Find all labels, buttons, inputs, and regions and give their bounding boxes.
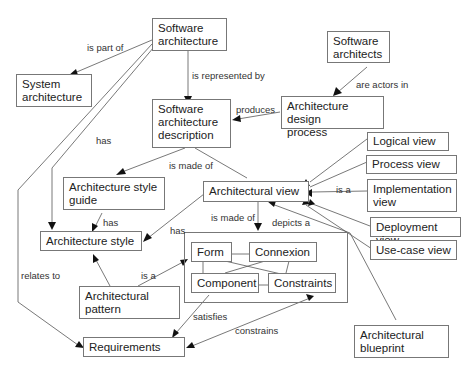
edge-label-depicts-a: depicts a (272, 217, 310, 228)
edge-is-a-pattern-style (96, 260, 110, 286)
edge-deployment-view (310, 203, 370, 226)
arrowhead (48, 222, 56, 230)
arrowhead (116, 168, 126, 175)
node-software-architects[interactable]: Software architects (327, 31, 390, 63)
node-system-architecture[interactable]: System architecture (16, 74, 92, 107)
node-software-architecture[interactable]: Software architecture (152, 18, 227, 51)
edge-label-constrains: constrains (235, 325, 278, 336)
arrowhead (333, 87, 342, 96)
node-style-guide[interactable]: Architecture style guide (63, 177, 165, 210)
node-implementation-view[interactable]: Implementation view (367, 179, 457, 212)
node-architectural-pattern[interactable]: Architectural pattern (79, 286, 180, 319)
node-logical-view[interactable]: Logical view (367, 132, 449, 151)
node-process-view[interactable]: Process view (366, 155, 457, 174)
node-sa-description[interactable]: Software architecture description (152, 99, 231, 148)
edge-constrains (192, 298, 310, 346)
node-component[interactable]: Component (191, 273, 259, 293)
edge-label-is-part-of: is part of (87, 42, 123, 53)
edge-label-is-a-views: is a (336, 184, 351, 195)
node-connexion[interactable]: Connexion (249, 242, 317, 262)
edge-label-is-a-pattern: is a (141, 270, 156, 281)
node-requirements[interactable]: Requirements (83, 337, 185, 357)
node-usecase-view[interactable]: Use-case view (370, 240, 457, 260)
edge-label-has-view-style: has (170, 225, 185, 236)
edge-label-produces: produces (236, 104, 275, 115)
edge-logical-view (310, 139, 367, 182)
node-design-process[interactable]: Architecture design process (281, 96, 384, 129)
edge-label-is-represented-by: is represented by (192, 70, 265, 81)
node-architecture-style[interactable]: Architecture style (40, 231, 142, 251)
node-deployment-view[interactable]: Deployment view (370, 217, 461, 237)
edge-label-is-made-of-2: is made of (211, 212, 255, 223)
edge-label-has-guide: has (103, 217, 118, 228)
edge-has-guide (95, 213, 102, 227)
node-form[interactable]: Form (191, 242, 232, 262)
edge-label-satisfies: satisfies (193, 311, 227, 322)
arrowhead (254, 223, 262, 231)
arrowhead (143, 233, 152, 242)
edge-label-is-made-of-1: is made of (169, 160, 213, 171)
node-constraints[interactable]: Constraints (268, 273, 336, 293)
arrowhead (232, 115, 241, 122)
arrowhead (308, 199, 315, 206)
edge-label-are-actors-in: are actors in (356, 79, 408, 90)
node-architectural-blueprint[interactable]: Architectural blueprint (354, 325, 449, 358)
arrowhead (93, 254, 99, 263)
node-architectural-view[interactable]: Architectural view (203, 181, 309, 202)
edge-label-relates-to: relates to (21, 270, 60, 281)
edge-label-has-top: has (96, 135, 111, 146)
